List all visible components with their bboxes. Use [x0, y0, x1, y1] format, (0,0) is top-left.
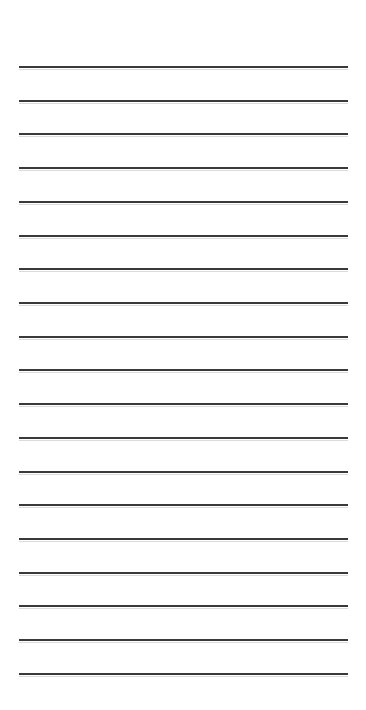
rule-line — [19, 66, 348, 68]
lined-paper-sheet — [0, 0, 366, 710]
rule-line — [19, 538, 348, 540]
rule-line — [19, 673, 348, 675]
rule-line — [19, 504, 348, 506]
rule-line — [19, 403, 348, 405]
rule-line — [19, 369, 348, 371]
rule-line — [19, 302, 348, 304]
rule-line — [19, 572, 348, 574]
rule-line — [19, 336, 348, 338]
rule-line — [19, 167, 348, 169]
rule-line — [19, 268, 348, 270]
rule-line — [19, 201, 348, 203]
rule-line — [19, 471, 348, 473]
ruled-lines-group — [0, 0, 366, 710]
rule-line — [19, 100, 348, 102]
rule-line — [19, 639, 348, 641]
rule-line — [19, 133, 348, 135]
rule-line — [19, 437, 348, 439]
rule-line — [19, 235, 348, 237]
rule-line — [19, 605, 348, 607]
